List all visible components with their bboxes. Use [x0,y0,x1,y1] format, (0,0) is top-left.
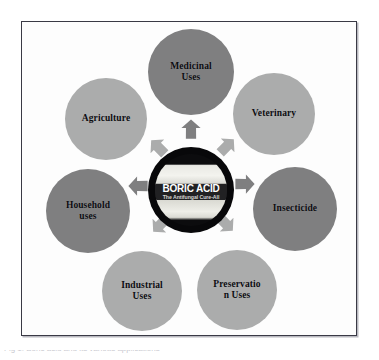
diagram-panel: Medicinal UsesVeterinaryInsecticidePrese… [21,21,357,336]
arrow-to-household-uses-icon [127,175,149,197]
node-label: Industrial Uses [116,280,168,303]
node-industrial-uses: Industrial Uses [102,251,182,331]
node-insecticide: Insecticide [253,167,337,251]
node-label: Medicinal Uses [165,61,217,84]
center-hub-boric-acid-logo: BORIC ACIDThe Antifungal Cure-All [148,147,234,233]
node-label: Agriculture [77,113,135,125]
hub-inner-disc: BORIC ACIDThe Antifungal Cure-All [155,154,227,226]
node-household-uses: Household uses [46,169,130,253]
figure-caption: Fig 1: Boric acid and its various applic… [4,350,234,360]
figure-caption-text: Fig 1: Boric acid and its various applic… [4,350,234,353]
node-agriculture: Agriculture [65,78,147,160]
node-medicinal-uses: Medicinal Uses [148,29,234,115]
boric-acid-uses-figure: Medicinal UsesVeterinaryInsecticidePrese… [0,0,379,360]
node-label: Preservatio n Uses [208,279,265,302]
arrow-to-insecticide-icon [234,173,256,195]
hub-subtitle: The Antifungal Cure-All [163,194,220,200]
node-label: Insecticide [268,203,322,215]
hub-title: BORIC ACID [162,184,219,194]
node-veterinary: Veterinary [233,73,315,155]
node-label: Veterinary [247,108,301,120]
node-preservatio-n-uses: Preservatio n Uses [197,250,277,330]
node-label: Household uses [61,200,115,223]
diagram-stage: Medicinal UsesVeterinaryInsecticidePrese… [22,22,356,335]
hub-text-band: BORIC ACIDThe Antifungal Cure-All [155,184,227,199]
arrow-to-medicinal-uses-icon [180,118,202,140]
